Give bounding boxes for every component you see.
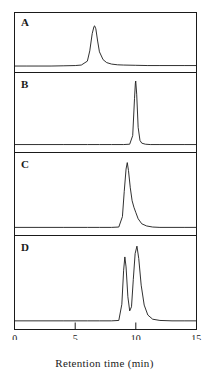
panel-letter-a: A [21,16,29,28]
x-axis-tick-labels: 0 5 10 15 [12,333,201,340]
chromatogram-figure: A B C D 0 5 10 15 Retention time (min) [0,0,209,384]
x-tick-label-0: 0 [12,333,17,340]
x-axis-title: Retention time (min) [0,357,209,369]
panel-frame-d [15,236,197,330]
panel-frame-a [15,13,197,73]
trace-d [15,246,196,321]
x-tick-label-15: 15 [191,333,201,340]
panel-frame-b [15,73,197,153]
trace-a [15,26,196,66]
x-axis-ticks [75,323,136,330]
panel-frames [15,13,197,330]
panel-letter-c: C [21,158,29,170]
x-tick-label-5: 5 [73,333,78,340]
panel-frame-c [15,153,197,236]
panel-letter-b: B [21,78,29,90]
trace-c [15,163,196,228]
trace-b [15,81,196,144]
panel-letters: A B C D [21,16,29,253]
panel-letter-d: D [21,241,29,253]
traces [15,26,196,321]
x-tick-label-10: 10 [131,333,141,340]
panel-stack: A B C D 0 5 10 15 [0,0,209,340]
chromatogram-plot: A B C D 0 5 10 15 [0,0,209,340]
